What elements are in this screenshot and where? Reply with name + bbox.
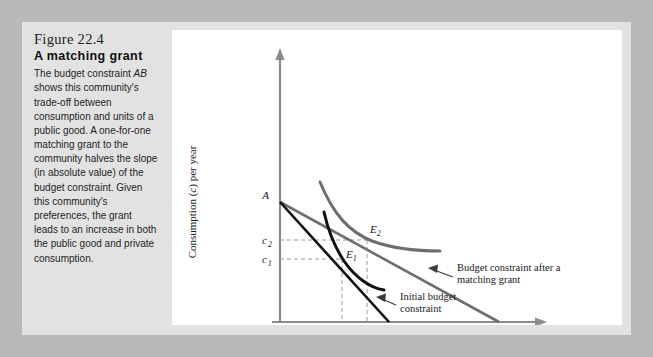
- annotation-matching-grant-line1: Budget constraint after a: [457, 262, 561, 273]
- y-tick-c1-letter: c: [262, 253, 267, 265]
- annotation-initial-budget-arrowhead: [376, 294, 386, 303]
- y-tick-label-c1: c 1: [262, 253, 272, 268]
- caption-term-ab: AB: [134, 68, 147, 79]
- annotation-initial-budget-line1: Initial budget: [400, 291, 456, 302]
- x-axis-arrowhead: [535, 317, 547, 325]
- y-tick-c2-subscript: 2: [268, 240, 272, 249]
- indifference-curve-2: [320, 182, 440, 251]
- point-label-E1-letter: E: [345, 248, 353, 260]
- guide-lines: [280, 240, 367, 322]
- initial-budget-constraint: [280, 202, 389, 322]
- point-label-A: A: [261, 189, 269, 201]
- annotation-matching-grant-arrowhead: [428, 265, 438, 274]
- point-label-E2: E 2: [369, 223, 381, 238]
- y-tick-label-c2: c 2: [262, 234, 272, 249]
- caption-text-part1: The budget constraint: [34, 68, 134, 79]
- figure-caption: Figure 22.4 A matching grant The budget …: [34, 30, 158, 266]
- caption-text-part2: shows this community's trade-off between…: [34, 82, 157, 263]
- point-label-E1-subscript: 1: [353, 254, 357, 263]
- figure-title: A matching grant: [34, 49, 158, 64]
- y-axis-title: Consumption (c) per year: [186, 145, 199, 258]
- point-label-E1: E 1: [345, 248, 357, 263]
- point-label-E2-letter: E: [369, 223, 377, 235]
- figure-panel: Figure 22.4 A matching grant The budget …: [22, 22, 631, 335]
- y-tick-c2-letter: c: [262, 234, 267, 246]
- y-tick-c1-subscript: 1: [268, 259, 272, 268]
- figure-number: Figure 22.4: [34, 30, 158, 48]
- annotation-initial-budget: Initial budget constraint: [376, 291, 456, 314]
- figure-caption-body: The budget constraint AB shows this comm…: [34, 67, 158, 266]
- chart-plot-area: Consumption (c) per year Units of public…: [172, 30, 622, 325]
- annotation-matching-grant-line2: matching grant: [457, 274, 520, 285]
- y-axis-arrowhead: [275, 48, 284, 60]
- annotation-initial-budget-line2: constraint: [400, 303, 441, 314]
- matching-grant-chart: Consumption (c) per year Units of public…: [172, 30, 622, 325]
- point-label-E2-subscript: 2: [377, 229, 381, 238]
- annotation-matching-grant: Budget constraint after a matching grant: [428, 262, 561, 285]
